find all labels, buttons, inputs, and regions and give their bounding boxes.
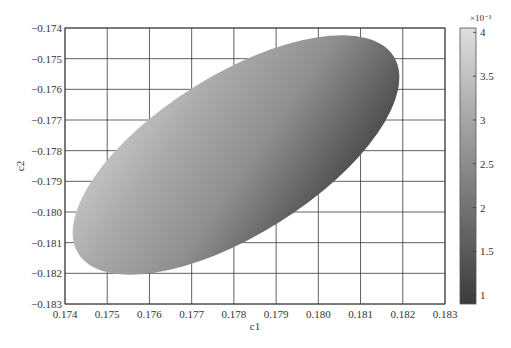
y-tick-label: −0.180 xyxy=(31,206,62,218)
y-tick-label: −0.179 xyxy=(31,175,62,187)
y-tick-label: −0.183 xyxy=(31,298,62,310)
x-axis-label: c1 xyxy=(250,320,260,332)
colorbar-tick-label: 1.5 xyxy=(480,245,494,257)
y-tick-labels: −0.174−0.175−0.176−0.177−0.178−0.179−0.1… xyxy=(31,22,62,310)
colorbar: ×10⁻³ 11.522.533.54 xyxy=(460,13,494,304)
x-tick-labels: 0.1740.1750.1760.1770.1780.1790.1800.181… xyxy=(53,308,458,320)
x-tick-label: 0.176 xyxy=(137,308,162,320)
x-tick-label: 0.175 xyxy=(95,308,120,320)
y-tick-label: −0.182 xyxy=(31,267,62,279)
colorbar-tick-label: 4 xyxy=(480,26,486,38)
y-tick-label: −0.174 xyxy=(31,22,62,34)
x-tick-label: 0.182 xyxy=(390,308,415,320)
colorbar-tick-label: 3.5 xyxy=(480,70,494,82)
x-tick-label: 0.178 xyxy=(222,308,247,320)
x-tick-label: 0.180 xyxy=(306,308,331,320)
y-tick-label: −0.176 xyxy=(31,83,62,95)
y-tick-label: −0.175 xyxy=(31,53,62,65)
colorbar-tick-label: 3 xyxy=(480,114,486,126)
colorbar-tick-label: 2 xyxy=(480,202,486,214)
x-tick-label: 0.179 xyxy=(264,308,289,320)
colorbar-gradient xyxy=(460,28,476,304)
colorbar-tick-label: 1 xyxy=(480,289,486,301)
y-tick-label: −0.177 xyxy=(31,114,62,126)
y-tick-label: −0.181 xyxy=(31,237,62,249)
chart: 0.1740.1750.1760.1770.1780.1790.1800.181… xyxy=(0,0,511,348)
colorbar-exponent: ×10⁻³ xyxy=(470,13,492,23)
x-tick-label: 0.183 xyxy=(433,308,458,320)
x-tick-label: 0.181 xyxy=(348,308,373,320)
y-tick-label: −0.178 xyxy=(31,145,62,157)
y-axis-label: c2 xyxy=(14,161,26,171)
x-tick-label: 0.177 xyxy=(179,308,204,320)
colorbar-tick-label: 2.5 xyxy=(480,158,494,170)
